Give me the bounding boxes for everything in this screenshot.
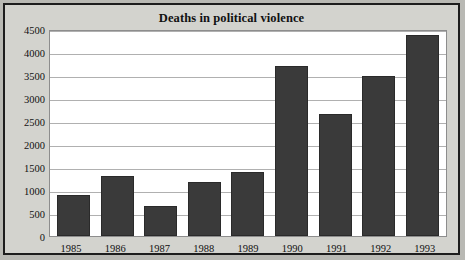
x-axis-tick-label: 1992 [364, 243, 397, 254]
y-axis-tick-label: 2500 [5, 117, 45, 128]
x-axis-tick-label: 1987 [143, 243, 176, 254]
y-axis: 050010001500200025003000350040004500 [5, 30, 45, 237]
y-axis-tick-label: 3000 [5, 94, 45, 105]
y-axis-tick-label: 4500 [5, 25, 45, 36]
chart-figure: Deaths in political violence 05001000150… [3, 3, 460, 255]
y-axis-tick-label: 2000 [5, 140, 45, 151]
y-axis-tick-label: 0 [5, 232, 45, 243]
x-axis: 198519861987198819891990199119921993 [49, 239, 447, 257]
bar [275, 66, 308, 236]
plot-area [49, 30, 447, 237]
bar [188, 182, 221, 236]
bar-series [50, 31, 446, 236]
bar [362, 76, 395, 236]
x-axis-tick-label: 1990 [276, 243, 309, 254]
bar [101, 176, 134, 236]
y-axis-tick-label: 3500 [5, 71, 45, 82]
bar [144, 206, 177, 236]
bar [231, 172, 264, 236]
y-axis-tick-label: 1000 [5, 186, 45, 197]
x-axis-tick-label: 1985 [55, 243, 88, 254]
x-axis-tick-label: 1988 [187, 243, 220, 254]
bar [406, 35, 439, 236]
bar [319, 114, 352, 236]
x-axis-tick-label: 1986 [99, 243, 132, 254]
plot-wrapper [49, 30, 447, 237]
x-axis-tick-label: 1989 [231, 243, 264, 254]
x-axis-tick-label: 1991 [320, 243, 353, 254]
y-axis-tick-label: 1500 [5, 163, 45, 174]
bar [57, 195, 90, 236]
y-axis-tick-label: 4000 [5, 48, 45, 59]
x-axis-tick-label: 1993 [408, 243, 441, 254]
y-axis-tick-label: 500 [5, 209, 45, 220]
chart-title: Deaths in political violence [5, 11, 458, 26]
